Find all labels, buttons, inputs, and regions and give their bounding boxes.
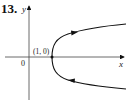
point-label: (1, 0): [33, 47, 50, 56]
curve-lower-branch: [52, 57, 126, 89]
vertex-point: [51, 56, 54, 59]
curve-upper-branch: [52, 24, 126, 57]
x-axis-label: x: [118, 59, 123, 69]
origin-label: 0: [21, 59, 25, 68]
parametric-graph: y x 0 (1, 0): [0, 0, 130, 103]
y-axis-label: y: [21, 4, 26, 14]
